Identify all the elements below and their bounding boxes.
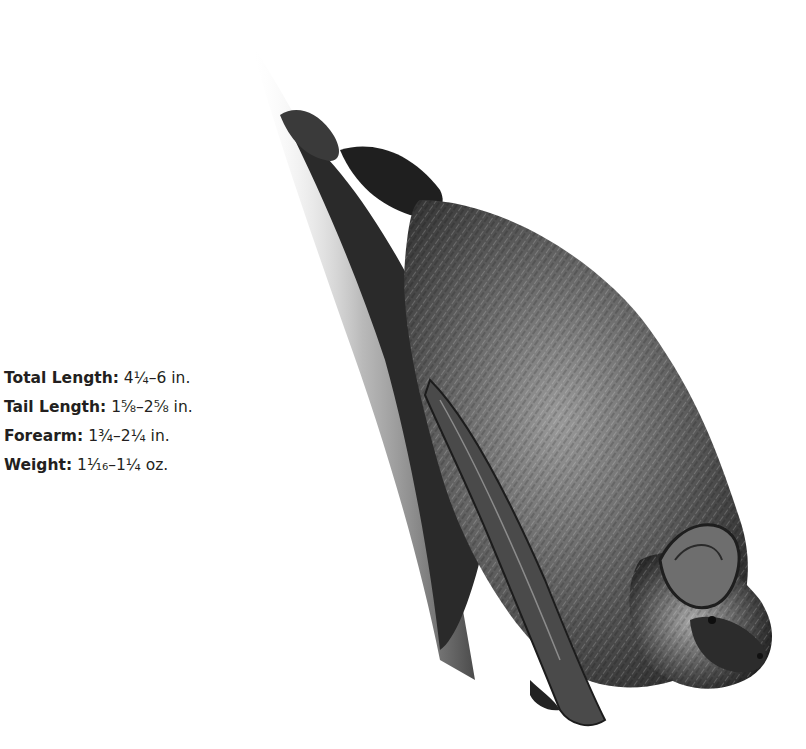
measurement-label: Tail Length: bbox=[4, 398, 106, 416]
eye bbox=[708, 616, 716, 624]
measurement-value: 4¼–6 in. bbox=[124, 369, 190, 387]
measurement-label: Total Length: bbox=[4, 369, 119, 387]
measurement-weight: Weight: 1⅟₁₆–1¼ oz. bbox=[4, 451, 193, 480]
measurement-forearm: Forearm: 1¾–2¼ in. bbox=[4, 422, 193, 451]
measurement-value: 1¾–2¼ in. bbox=[88, 427, 170, 445]
measurement-list: Total Length: 4¼–6 in. Tail Length: 1⅝–2… bbox=[4, 364, 193, 480]
measurement-total-length: Total Length: 4¼–6 in. bbox=[4, 364, 193, 393]
measurement-label: Weight: bbox=[4, 456, 72, 474]
measurement-tail-length: Tail Length: 1⅝–2⅝ in. bbox=[4, 393, 193, 422]
measurement-label: Forearm: bbox=[4, 427, 83, 445]
measurement-value: 1⅝–2⅝ in. bbox=[111, 398, 193, 416]
measurement-value: 1⅟₁₆–1¼ oz. bbox=[77, 456, 168, 474]
